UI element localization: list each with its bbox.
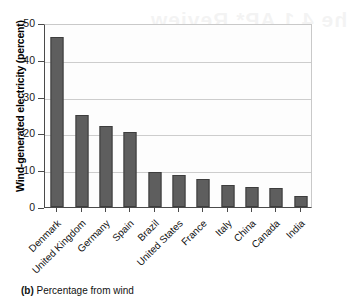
y-tick-label-50: 50 — [0, 18, 35, 29]
figure-caption-text: Percentage from wind — [37, 285, 134, 296]
bar — [270, 188, 283, 207]
x-tick-10 — [300, 208, 301, 212]
bar-slot — [264, 25, 288, 207]
y-tick-label-30: 30 — [0, 92, 35, 103]
x-tick-9 — [275, 208, 276, 212]
x-tick-0 — [56, 208, 57, 212]
bar — [51, 37, 64, 207]
x-tick-7 — [227, 208, 228, 212]
figure-caption-label: (b) — [21, 285, 34, 296]
bar — [124, 132, 137, 207]
y-tick-label-10: 10 — [0, 165, 35, 176]
bar-slot — [69, 25, 93, 207]
bar-slot — [167, 25, 191, 207]
bar — [221, 185, 234, 207]
bar — [197, 179, 210, 207]
y-tick-label-0: 0 — [0, 202, 35, 213]
bar — [99, 126, 112, 207]
plot-area — [44, 24, 312, 208]
bar-series — [45, 25, 311, 207]
x-tick-5 — [178, 208, 179, 212]
x-tick-4 — [154, 208, 155, 212]
y-tick-label-40: 40 — [0, 55, 35, 66]
bar-slot — [94, 25, 118, 207]
y-tick-label-20: 20 — [0, 128, 35, 139]
x-tick-1 — [81, 208, 82, 212]
bar-slot — [142, 25, 166, 207]
y-tick-0 — [38, 208, 44, 209]
bar — [294, 196, 307, 207]
x-tick-8 — [251, 208, 252, 212]
bar-slot — [216, 25, 240, 207]
y-axis-title: Wind-generated electricity (percent) — [14, 0, 26, 212]
bar-slot — [118, 25, 142, 207]
x-tick-6 — [202, 208, 203, 212]
bar — [148, 172, 161, 207]
bar — [75, 115, 88, 207]
x-tick-3 — [129, 208, 130, 212]
bar — [246, 187, 259, 207]
bar-slot — [191, 25, 215, 207]
bar-slot — [45, 25, 69, 207]
bar — [172, 175, 185, 207]
x-tick-2 — [105, 208, 106, 212]
bar-slot — [240, 25, 264, 207]
figure-caption: (b) Percentage from wind — [21, 285, 134, 296]
bar-slot — [289, 25, 313, 207]
